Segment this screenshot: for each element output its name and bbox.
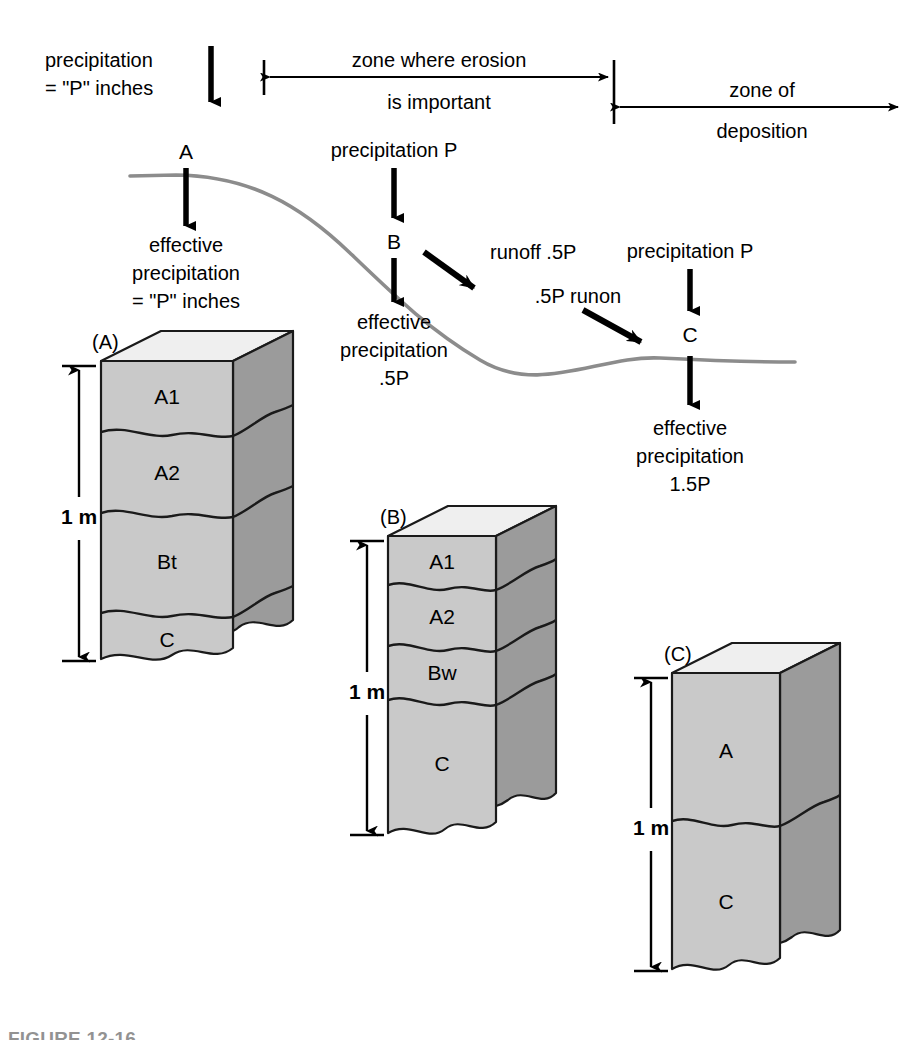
zone-erosion-label-line1: zone where erosion (352, 49, 527, 71)
point-a-result-line1: effective (149, 234, 223, 256)
block-b-depth-label: 1 m (349, 680, 385, 703)
zone-deposition-label-line1: zone of (729, 79, 795, 101)
zone-deposition-label-line2: deposition (716, 120, 807, 142)
point-b-result-line1: effective (357, 311, 431, 333)
block-b-horizon-label-2: Bw (427, 661, 457, 684)
point-c-result-line2: precipitation (636, 445, 744, 467)
block-c-id-label: (C) (664, 643, 692, 665)
block-a-depth-label: 1 m (61, 505, 97, 528)
block-b-horizon-label-3: C (434, 752, 449, 775)
top-precip-line1: precipitation (45, 49, 153, 71)
block-c-depth-dimension: 1 m (633, 678, 669, 971)
zone-deposition-bracket: zone of deposition (620, 79, 898, 142)
top-precip-line2: = "P" inches (45, 77, 153, 99)
block-b-horizon-label-1: A2 (429, 605, 455, 628)
runon-annotation: .5P runon (535, 285, 641, 342)
block-b-id-label: (B) (380, 506, 407, 528)
point-c-result-line3: 1.5P (669, 473, 710, 495)
block-a-horizon-label-0: A1 (154, 385, 180, 408)
figure-canvas: zone where erosion is important zone of … (0, 0, 916, 1040)
point-b-label: B (387, 230, 401, 253)
point-c-label: C (682, 323, 697, 346)
block-a-horizon-label-1: A2 (154, 461, 180, 484)
runoff-arrow-icon (424, 252, 474, 288)
soil-profile-block-a: A1 A2 Bt C (A) 1 m (61, 331, 293, 661)
soil-catena-figure: zone where erosion is important zone of … (0, 0, 916, 1040)
block-c-side-face (780, 643, 840, 943)
runoff-annotation: runoff .5P (424, 241, 576, 288)
zone-erosion-bracket: zone where erosion is important (264, 49, 614, 124)
block-b-depth-dimension: 1 m (349, 541, 385, 835)
soil-profile-block-c: A C (C) 1 m (633, 643, 840, 971)
point-a-annotation: A effective precipitation = "P" inches (132, 140, 240, 313)
block-c-front-face (672, 673, 780, 970)
runon-label: .5P runon (535, 285, 621, 307)
point-a-result-line3: = "P" inches (132, 290, 240, 312)
figure-caption: FIGURE 12-16 (8, 1026, 428, 1040)
block-b-side-face (496, 506, 556, 806)
point-b-result-line3: .5P (379, 367, 409, 389)
point-c-annotation: precipitation P C effective precipitatio… (627, 240, 754, 495)
point-c-result-line1: effective (653, 417, 727, 439)
block-a-id-label: (A) (92, 331, 119, 353)
runon-arrow-icon (583, 310, 641, 342)
block-b-front-face (388, 536, 496, 834)
top-precipitation-annotation: precipitation = "P" inches (45, 46, 211, 102)
point-a-result-line2: precipitation (132, 262, 240, 284)
block-c-depth-label: 1 m (633, 816, 669, 839)
point-a-label: A (179, 140, 193, 163)
soil-profile-block-b: A1 A2 Bw C (B) 1 m (349, 506, 556, 835)
point-b-precip-label: precipitation P (331, 139, 458, 161)
block-a-horizon-label-2: Bt (157, 550, 177, 573)
block-c-horizon-label-1: C (718, 890, 733, 913)
block-b-horizon-label-0: A1 (429, 550, 455, 573)
block-c-horizon-label-0: A (719, 739, 733, 762)
block-a-depth-dimension: 1 m (61, 366, 97, 661)
point-c-precip-label: precipitation P (627, 240, 754, 262)
point-b-result-line2: precipitation (340, 339, 448, 361)
runoff-label: runoff .5P (490, 241, 576, 263)
block-a-side-face (233, 331, 293, 631)
zone-erosion-label-line2: is important (387, 91, 491, 113)
block-a-horizon-label-3: C (159, 628, 174, 651)
